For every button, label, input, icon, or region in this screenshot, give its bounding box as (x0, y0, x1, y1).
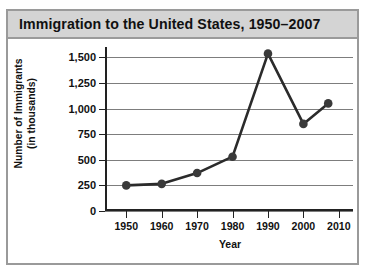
data-point (264, 49, 273, 58)
y-axis-title: Number of Immigrants (in thousands) (13, 39, 38, 189)
x-axis-tick-label: 1980 (221, 220, 245, 232)
chart-title-bar: Immigration to the United States, 1950–2… (8, 11, 357, 39)
chart-figure: Immigration to the United States, 1950–2… (6, 9, 359, 265)
y-axis-tick-label: 750 (78, 128, 96, 140)
y-axis-tick-label: 250 (78, 179, 96, 191)
x-axis-tick (126, 211, 127, 218)
x-axis-tick-label: 1990 (256, 220, 280, 232)
y-axis-tick-label: 1,000 (68, 103, 96, 115)
x-axis-tick-label: 1950 (114, 220, 138, 232)
x-axis-tick-label: 1970 (185, 220, 209, 232)
series-polyline (126, 54, 328, 186)
data-point (228, 152, 237, 161)
data-point (193, 169, 202, 178)
x-axis-tick (162, 211, 163, 218)
plot-region: Number of Immigrants (in thousands) 0250… (8, 39, 357, 265)
y-axis-title-line2: (in thousands) (25, 39, 38, 189)
data-point (324, 99, 333, 108)
x-axis-title: Year (105, 238, 355, 250)
y-axis-title-line1: Number of Immigrants (13, 39, 26, 189)
x-axis-tick (339, 211, 340, 218)
y-axis-tick-label: 1,250 (68, 77, 96, 89)
x-axis-tick (233, 211, 234, 218)
chart-title: Immigration to the United States, 1950–2… (19, 16, 321, 32)
x-axis-tick-label: 1960 (150, 220, 174, 232)
x-axis-tick (268, 211, 269, 218)
data-point (157, 180, 166, 189)
line-series (105, 47, 353, 211)
x-axis-tick (303, 211, 304, 218)
y-axis-tick (99, 211, 105, 212)
data-point (122, 181, 131, 190)
x-axis-tick (197, 211, 198, 218)
x-axis-tick-label: 2000 (292, 220, 316, 232)
gridline (105, 211, 353, 212)
x-axis-tick-label: 2010 (327, 220, 351, 232)
data-point (299, 120, 308, 129)
y-axis-tick-label: 500 (78, 154, 96, 166)
plot-area: 02505007501,0001,2501,500 19501960197019… (105, 47, 353, 211)
y-axis-tick-label: 0 (90, 205, 96, 217)
y-axis-tick-label: 1,500 (68, 51, 96, 63)
